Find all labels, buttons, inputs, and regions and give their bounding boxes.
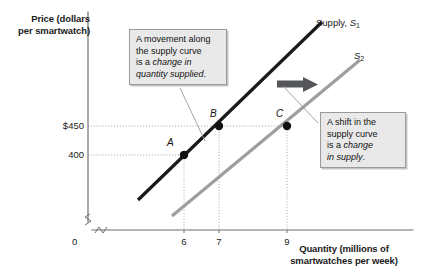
callout-movement-line1: A movement along [136,34,220,46]
leader-line-movement [180,88,205,141]
callout-shift-line1: A shift in the [327,117,399,129]
point-label-b: B [210,108,217,119]
y-axis-break-icon [85,214,91,225]
x-tick-label-7: 7 [209,236,229,247]
callout-shift-line4-period: . [363,152,366,162]
y-tick-label-450: $450 [36,120,84,131]
callout-shift-line3-emphasis: change [344,140,374,150]
callout-movement-line3-emphasis: change in [153,57,192,67]
callout-shift-line4-emphasis: in supply [327,152,363,162]
x-tick-label-6: 6 [174,236,194,247]
callout-shift-line3: is a change [327,140,399,152]
point-a-marker [180,151,188,159]
curve-label-s1-text: Supply, [316,17,350,28]
callout-movement-line4-emphasis: quantity supplied [136,69,204,79]
data-points [180,122,291,159]
point-c-marker [283,122,291,130]
callout-shift-in-curve: A shift in the supply curve is a change … [320,112,406,168]
point-b-marker [215,122,223,130]
callout-movement-line4-period: . [204,69,207,79]
y-axis-title: Price (dollars per smartwatch) [18,13,90,36]
callout-movement-line3: is a change in [136,57,220,69]
leader-line-shift [283,86,318,123]
callout-shift-line3-plain: is a [327,140,344,150]
callout-movement-line4: quantity supplied. [136,69,220,81]
curve-label-s2: S2 [354,50,364,61]
callout-movement-line3-plain: is a [136,57,153,67]
curve-label-s2-subscript: 2 [360,55,364,62]
origin-label: 0 [72,236,77,247]
callout-shift-line2: supply curve [327,129,399,141]
supply-curve-figure: Price (dollars per smartwatch) Quantity … [0,0,425,279]
point-label-c: C [276,108,283,119]
y-tick-label-400: 400 [36,149,84,160]
point-label-a: A [167,137,174,148]
guide-lines [88,126,287,230]
x-tick-label-9: 9 [277,236,297,247]
curve-label-s1-subscript: 1 [356,22,360,29]
callout-movement-along-curve: A movement along the supply curve is a c… [129,29,227,85]
curve-label-s1: Supply, S1 [316,17,360,28]
callout-movement-line2: the supply curve [136,46,220,58]
shift-arrow [277,77,318,92]
callout-shift-line4: in supply. [327,152,399,164]
x-axis-break-icon [95,227,107,233]
